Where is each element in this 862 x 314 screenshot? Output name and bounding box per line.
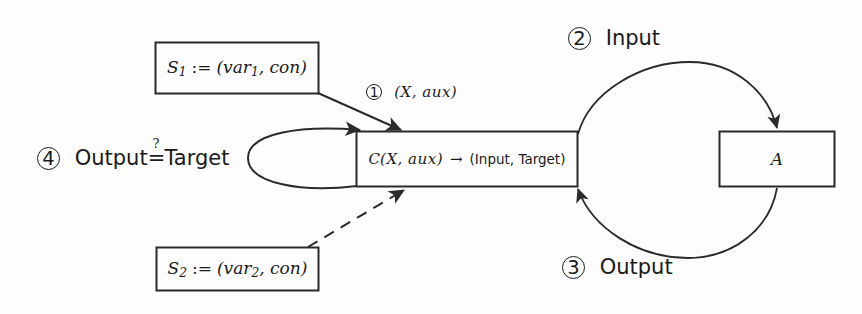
spec2-label: S2:=(var2, con) xyxy=(156,247,319,291)
agent-symbol: A xyxy=(771,149,783,169)
edge-output-to-compiler xyxy=(578,188,777,258)
step4-marker: 4 xyxy=(37,147,60,170)
edge-spec2-to-compiler-dashed xyxy=(308,190,404,247)
step2-label: 2 Input xyxy=(568,26,660,50)
step4-relation: ?= xyxy=(148,146,165,170)
edge-feedback-loop xyxy=(248,129,360,189)
spec2-assign: := xyxy=(187,258,217,278)
spec2-value-tail: , con) xyxy=(259,258,307,278)
step3-text: Output xyxy=(600,255,673,279)
spec1-value: (var xyxy=(216,57,251,77)
spec1-subscript: 1 xyxy=(179,65,187,79)
spec1-label: S1:=(var1, con) xyxy=(155,42,319,94)
compiler-result: (Input, Target) xyxy=(470,151,566,167)
step1-marker: 1 xyxy=(366,84,382,100)
spec2-value: (var xyxy=(217,258,252,278)
step3-marker: 3 xyxy=(562,256,585,279)
compiler-label: C(X, aux)→(Input, Target) xyxy=(356,131,578,187)
step1-text: (X, aux) xyxy=(394,83,457,101)
spec1-value-tail: , con) xyxy=(259,57,307,77)
diagram-canvas: S1:=(var1, con) S2:=(var2, con) C(X, aux… xyxy=(0,0,862,314)
compiler-symbol: C xyxy=(369,150,380,168)
compiler-args: (X, aux) xyxy=(380,150,443,168)
step2-text: Input xyxy=(606,26,660,50)
spec1-value-subscript: 1 xyxy=(251,65,259,79)
step4-target-text: Target xyxy=(164,146,229,170)
agent-label: A xyxy=(719,131,835,187)
step3-label: 3 Output xyxy=(562,255,673,279)
edge-input-to-agent xyxy=(578,62,777,134)
spec2-subscript: 2 xyxy=(179,266,187,280)
step4-output-text: Output xyxy=(75,146,148,170)
spec2-symbol: S xyxy=(168,258,180,278)
step2-marker: 2 xyxy=(568,27,591,50)
compiler-arrow: → xyxy=(443,150,470,168)
step4-relation-question: ? xyxy=(153,136,160,151)
step4-label: 4 Output?=Target xyxy=(37,146,229,170)
spec1-assign: := xyxy=(187,57,217,77)
spec1-symbol: S xyxy=(167,57,179,77)
step1-label: 1 (X, aux) xyxy=(366,83,457,101)
